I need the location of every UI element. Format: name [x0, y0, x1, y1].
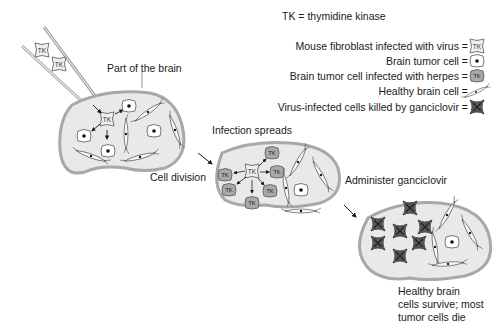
legend-item-tumor-cell: Brain tumor cell = [386, 55, 468, 67]
legend-item-infected-tumor-cell: Brain tumor cell infected with herpes = [290, 70, 468, 82]
infected-tumor-cell-icon [270, 166, 284, 179]
killed-cell-icon [371, 217, 385, 231]
killed-cell-icon [403, 201, 417, 215]
infected-tumor-cell-icon [263, 185, 277, 198]
killed-cell-icon [393, 224, 407, 238]
label-outcome-line2: cells survive; most [398, 298, 484, 310]
tumor-cell-icon [445, 236, 459, 249]
infected-tumor-cell-icon [265, 147, 279, 160]
fibroblast-in-needle-icon [35, 43, 49, 57]
tumor-cell-icon [147, 125, 161, 138]
legend-definition: TK = thymidine kinase [282, 10, 386, 22]
legend-killed-cell-icon [470, 100, 484, 114]
fibroblast-in-needle-icon [52, 57, 66, 71]
tumor-cell-icon [77, 130, 91, 143]
label-part-of-brain: Part of the brain [107, 62, 182, 74]
legend-item-killed-cell: Virus-infected cells killed by ganciclov… [278, 101, 468, 113]
label-outcome-line1: Healthy brain [398, 285, 460, 297]
killed-cell-icon [412, 236, 426, 250]
healthy-brain-cell-icon [281, 208, 321, 213]
legend-item-fibroblast: Mouse fibroblast infected with virus = [296, 40, 468, 52]
fibroblast-icon [245, 164, 259, 178]
killed-cell-icon [371, 236, 385, 250]
legend-fibroblast-icon [470, 39, 484, 53]
label-cell-division: Cell division [150, 171, 206, 183]
arrow-to-ganciclovir [344, 205, 356, 217]
killed-cell-icon [418, 220, 432, 234]
arrow-to-spread [198, 153, 212, 164]
label-infection-spreads: Infection spreads [212, 124, 292, 136]
infected-tumor-cell-icon [222, 184, 236, 197]
tumor-cell-icon [294, 184, 308, 197]
tumor-cell-icon [101, 145, 115, 158]
fibroblast-icon [100, 112, 114, 126]
label-administer-ganciclovir: Administer ganciclovir [345, 174, 447, 186]
infected-tumor-cell-icon [218, 169, 232, 182]
infected-tumor-cell-icon [245, 197, 259, 210]
legend-item-healthy-brain-cell: Healthy brain cell = [378, 85, 468, 97]
tumor-cell-icon [122, 100, 136, 113]
killed-cell-icon [393, 249, 407, 263]
label-outcome-line3: tumor cells die [398, 311, 466, 323]
legend-infected-tumor-cell-icon [470, 70, 484, 83]
legend-tumor-cell-icon [470, 55, 484, 68]
